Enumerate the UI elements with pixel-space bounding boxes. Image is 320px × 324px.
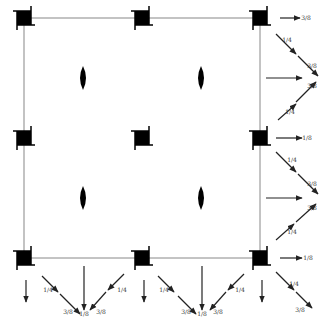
height-label: 1/4 — [43, 286, 53, 293]
height-label: 1/4 — [287, 228, 297, 235]
twofold-axis-icon — [80, 66, 86, 90]
height-label: 3/8 — [307, 82, 317, 89]
symmetry-diagram: 3/81/43/83/81/41/81/43/83/81/41/81/43/8 … — [0, 0, 320, 324]
height-label: 1/8 — [303, 254, 313, 261]
height-label: 1/8 — [79, 310, 89, 317]
height-label: 3/8 — [213, 308, 223, 315]
fourfold-screw-axes — [13, 6, 271, 270]
fourfold-axis-icon — [131, 126, 153, 150]
height-label: 3/8 — [63, 308, 73, 315]
height-label: 1/4 — [282, 36, 292, 43]
height-label: 1/4 — [235, 286, 245, 293]
height-label: 1/4 — [289, 280, 299, 287]
height-label: 1/4 — [285, 108, 295, 115]
glide-arrows-right: 3/81/43/83/81/41/81/43/83/81/41/81/43/8 — [266, 14, 318, 313]
height-label: 1/4 — [287, 156, 297, 163]
height-label: 3/8 — [295, 306, 305, 313]
height-label: 3/8 — [307, 204, 317, 211]
height-label: 3/8 — [301, 14, 311, 21]
twofold-axis-icon — [198, 186, 204, 210]
twofold-axis-icon — [198, 66, 204, 90]
height-label: 1/4 — [117, 286, 127, 293]
fourfold-axis-icon — [131, 6, 153, 30]
height-label: 3/8 — [181, 308, 191, 315]
height-label: 1/8 — [197, 310, 207, 317]
height-label: 3/8 — [96, 308, 106, 315]
height-label: 1/8 — [302, 134, 312, 141]
glide-arrows-bottom: 1/43/81/81/43/81/43/81/81/43/8 — [26, 266, 262, 317]
height-label: 3/8 — [307, 180, 317, 187]
twofold-axis-icon — [80, 186, 86, 210]
fourfold-axis-icon — [131, 246, 153, 270]
height-label: 3/8 — [307, 62, 317, 69]
height-label: 1/4 — [159, 286, 169, 293]
